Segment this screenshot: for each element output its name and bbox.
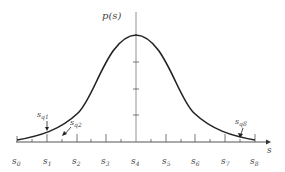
svg-text:sq2: sq2: [70, 118, 82, 129]
svg-text:s8: s8: [250, 156, 259, 167]
svg-text:s4: s4: [131, 156, 140, 167]
x-tick-labels: s0 s1 s2 s3 s4 s5 s6 s7 s8: [12, 156, 259, 167]
x-axis-arrow-icon: [266, 140, 271, 145]
y-axis-label: p(s): [102, 10, 121, 21]
arrow-icon: [45, 127, 49, 131]
svg-text:s6: s6: [191, 156, 200, 167]
svg-text:s2: s2: [72, 156, 81, 167]
annotation-sq8: sq8: [235, 117, 247, 138]
svg-text:sq1: sq1: [37, 110, 49, 121]
svg-text:s3: s3: [101, 156, 110, 167]
x-axis-label: s: [267, 145, 272, 155]
annotation-sq2: sq2: [62, 118, 82, 136]
gaussian-diagram: p(s) s s0 s1 s2 s3 s4 s5 s6 s7 s8 sq1 sq…: [0, 0, 285, 172]
svg-text:s1: s1: [43, 156, 51, 167]
annotation-sq1: sq1: [37, 110, 49, 131]
svg-text:s7: s7: [221, 156, 230, 167]
svg-text:s5: s5: [162, 156, 171, 167]
svg-text:sq8: sq8: [235, 117, 247, 128]
svg-text:s0: s0: [12, 156, 21, 167]
arrow-icon: [62, 131, 67, 136]
